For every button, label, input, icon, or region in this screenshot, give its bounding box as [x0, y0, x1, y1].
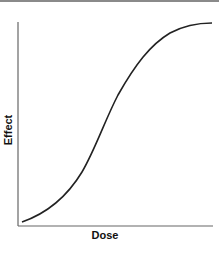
dose-response-chart [0, 0, 219, 259]
sigmoid-curve [22, 23, 212, 222]
x-axis-label: Dose [92, 229, 119, 241]
y-axis-label: Effect [2, 115, 14, 146]
